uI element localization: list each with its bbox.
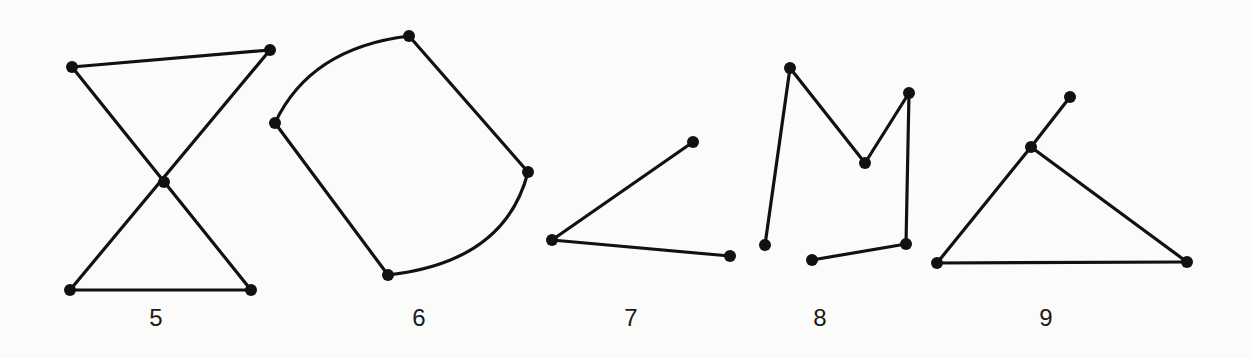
curved-edge [388, 172, 528, 275]
edge [865, 93, 909, 163]
edge [937, 147, 1031, 263]
edge [409, 36, 528, 172]
figure-7-angle [546, 136, 736, 262]
edge [790, 68, 865, 163]
figure-label-8: 8 [813, 306, 826, 330]
figure-8-polyline [759, 62, 915, 266]
figure-6-curved-shape [269, 30, 534, 281]
vertex-dot [158, 176, 170, 188]
vertex-dot [859, 157, 871, 169]
edge [72, 50, 270, 67]
vertex-dot [687, 136, 699, 148]
edge [1031, 147, 1187, 262]
vertex-dot [900, 238, 912, 250]
figure-9-triangle-with-tail [931, 91, 1193, 269]
vertex-dot [1025, 141, 1037, 153]
edge [906, 93, 909, 244]
edge [1031, 97, 1070, 147]
vertex-dot [269, 117, 281, 129]
vertex-dot [724, 250, 736, 262]
figure-5-bowtie [64, 44, 276, 296]
vertex-dot [1181, 256, 1193, 268]
vertex-dot [403, 30, 415, 42]
curved-edge [275, 36, 409, 123]
edge [275, 123, 388, 275]
figure-label-6: 6 [412, 306, 425, 330]
vertex-dot [66, 61, 78, 73]
polygon-examples-figure: 5 6 7 8 9 [0, 0, 1252, 358]
edge [552, 240, 730, 256]
vertex-dot [522, 166, 534, 178]
edge [765, 68, 790, 245]
vertex-dot [903, 87, 915, 99]
edge [812, 244, 906, 260]
vertex-dot [64, 284, 76, 296]
figure-label-5: 5 [149, 306, 162, 330]
vertex-dot [784, 62, 796, 74]
vertex-dot [759, 239, 771, 251]
vertex-dot [245, 284, 257, 296]
vertex-dot [546, 234, 558, 246]
figure-label-9: 9 [1039, 306, 1052, 330]
vertex-dot [1064, 91, 1076, 103]
vertex-dot [931, 257, 943, 269]
vertex-dot [264, 44, 276, 56]
vertex-dot [382, 269, 394, 281]
figure-label-7: 7 [624, 306, 637, 330]
edge [937, 262, 1187, 263]
edge [70, 50, 270, 290]
vertex-dot [806, 254, 818, 266]
edge [552, 142, 693, 240]
